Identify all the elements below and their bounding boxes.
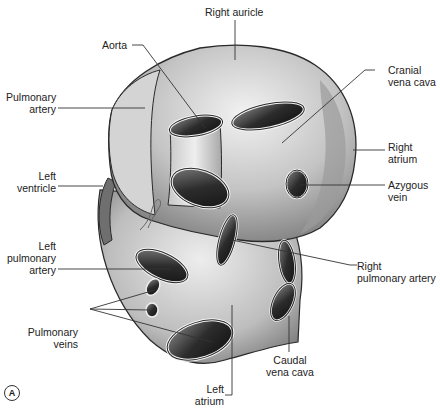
label-line: Right: [388, 141, 417, 153]
label-azygous-vein: Azygous vein: [388, 179, 428, 203]
label-line: artery: [6, 264, 56, 276]
label-line: Left: [6, 170, 56, 182]
panel-label: A: [4, 385, 20, 401]
label-line: Cranial: [388, 64, 436, 76]
label-line: Pulmonary: [6, 91, 56, 103]
label-right-atrium: Right atrium: [388, 141, 417, 165]
label-line: artery: [6, 103, 56, 115]
label-pulmonary-artery: Pulmonary artery: [6, 91, 56, 115]
label-line: veins: [20, 338, 78, 350]
label-cranial-vena-cava: Cranial vena cava: [388, 64, 436, 88]
label-line: Azygous: [388, 179, 428, 191]
label-left-atrium: Left atrium: [180, 383, 224, 407]
label-line: pulmonary artery: [357, 272, 436, 284]
label-line: atrium: [388, 153, 417, 165]
label-line: Pulmonary: [20, 326, 78, 338]
label-line: Left: [180, 383, 224, 395]
label-line: vena cava: [388, 76, 436, 88]
label-line: Caudal: [262, 354, 318, 366]
label-right-auricle: Right auricle: [205, 6, 263, 18]
label-left-pulmonary-artery: Left pulmonary artery: [6, 240, 56, 276]
label-caudal-vena-cava: Caudal vena cava: [262, 354, 318, 378]
label-line: Right: [357, 260, 436, 272]
label-left-ventricle: Left ventricle: [6, 170, 56, 194]
label-line: Left: [6, 240, 56, 252]
label-right-pulmonary-artery: Right pulmonary artery: [357, 260, 436, 284]
label-line: pulmonary: [6, 252, 56, 264]
label-line: vena cava: [262, 366, 318, 378]
heart-diagram: [0, 0, 440, 418]
label-pulmonary-veins: Pulmonary veins: [20, 326, 78, 350]
label-aorta: Aorta: [102, 39, 127, 51]
label-line: atrium: [180, 395, 224, 407]
label-line: ventricle: [6, 182, 56, 194]
label-line: vein: [388, 191, 428, 203]
